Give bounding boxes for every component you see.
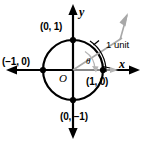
y-axis-label: y	[79, 6, 84, 18]
arc-tick-upper-icon	[94, 41, 100, 46]
point-label-bottom: (0, −1)	[60, 112, 88, 122]
y-axis-arrow-up-icon	[68, 4, 77, 15]
unit-circle-diagram: (0, 1) (−1, 0) (1, 0) (0, −1) O x y θ 1 …	[0, 0, 145, 143]
y-axis-arrow-down-icon	[68, 128, 77, 139]
theta-label: θ	[86, 57, 90, 66]
point-label-right: (1, 0)	[86, 77, 108, 87]
x-axis-label: x	[119, 58, 125, 70]
point-left	[40, 67, 46, 73]
point-right	[100, 67, 106, 73]
initial-side-arrow-icon	[110, 67, 118, 73]
point-bottom	[70, 97, 76, 103]
point-label-top: (0, 1)	[40, 22, 62, 32]
origin-label: O	[59, 73, 67, 84]
x-axis-arrow-right-icon	[129, 65, 140, 74]
arc-length-label: 1 unit	[106, 40, 129, 50]
point-label-left: (−1, 0)	[2, 57, 30, 67]
point-top	[70, 37, 76, 43]
